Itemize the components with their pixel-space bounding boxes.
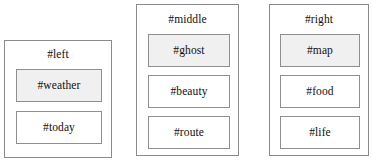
box-life[interactable]: #life [280,116,360,149]
box-map-label: #map [307,44,333,57]
box-food-label: #food [306,85,333,98]
box-route-label: #route [174,126,204,139]
box-food[interactable]: #food [280,75,360,108]
box-ghost-label: #ghost [173,44,204,57]
container-right[interactable]: #right #map #food #life [269,4,369,156]
box-map[interactable]: #map [280,34,360,67]
container-left-title: #left [5,48,111,61]
container-left[interactable]: #left #weather #today [4,40,112,158]
box-beauty-label: #beauty [170,85,207,98]
box-today-label: #today [43,121,75,134]
box-today[interactable]: #today [16,111,102,144]
container-middle-title: #middle [137,13,238,26]
box-weather-label: #weather [38,79,81,92]
container-right-title: #right [270,13,368,26]
box-ghost[interactable]: #ghost [148,34,230,67]
box-beauty[interactable]: #beauty [148,75,230,108]
container-middle[interactable]: #middle #ghost #beauty #route [136,4,239,156]
box-weather[interactable]: #weather [16,69,102,102]
diagram-canvas: #left #weather #today #middle #ghost #be… [0,0,378,167]
box-life-label: #life [309,126,331,139]
box-route[interactable]: #route [148,116,230,149]
